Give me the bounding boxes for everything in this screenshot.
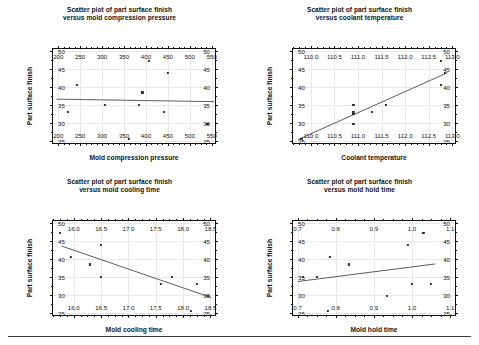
x-axis-label: Mold compression pressure xyxy=(52,154,216,161)
chart-title-line2: versus mold compression pressure xyxy=(0,14,239,22)
plot-frame: 2002002502503003003503504004004504505005… xyxy=(52,48,216,144)
x-axis-label: Mold hold time xyxy=(292,326,456,333)
chart-title: Scatter plot of part surface finishversu… xyxy=(0,178,239,195)
scatter-panel-mold-hold-time: Scatter plot of part surface finishversu… xyxy=(240,176,479,344)
figure-sheet: Scatter plot of part surface finishversu… xyxy=(0,0,479,345)
chart-title-line1: Scatter plot of part surface finish xyxy=(240,6,479,14)
chart-title-line1: Scatter plot of part surface finish xyxy=(0,178,239,186)
y-axis-label: Part surface finish xyxy=(25,48,35,144)
plot-frame: 110.0110.0110.5110.5111.0111.0111.5111.5… xyxy=(292,48,456,144)
chart-title-line1: Scatter plot of part surface finish xyxy=(240,178,479,186)
footer-divider xyxy=(8,336,471,337)
scatter-panel-mold-cooling-time: Scatter plot of part surface finishversu… xyxy=(0,176,239,344)
x-axis-label: Mold cooling time xyxy=(52,326,216,333)
x-axis-label: Coolant temperature xyxy=(292,154,456,161)
chart-title-line1: Scatter plot of part surface finish xyxy=(0,6,239,14)
chart-title: Scatter plot of part surface finishversu… xyxy=(240,178,479,195)
chart-title-line2: versus mold cooling time xyxy=(0,186,239,194)
y-axis-label: Part surface finish xyxy=(25,220,35,316)
plot-frame: 16.016.016.516.517.017.017.517.518.018.0… xyxy=(52,220,216,316)
scatter-panel-compression-pressure: Scatter plot of part surface finishversu… xyxy=(0,4,239,172)
y-axis-label: Part surface finish xyxy=(265,48,275,144)
chart-title: Scatter plot of part surface finishversu… xyxy=(240,6,479,23)
chart-title-line2: versus coolant temperature xyxy=(240,14,479,22)
chart-title: Scatter plot of part surface finishversu… xyxy=(0,6,239,23)
y-axis-label: Part surface finish xyxy=(265,220,275,316)
scatter-panel-coolant-temperature: Scatter plot of part surface finishversu… xyxy=(240,4,479,172)
plot-frame: 0.70.70.80.80.90.91.01.01.11.12525303035… xyxy=(292,220,456,316)
chart-title-line2: versus mold hold time xyxy=(240,186,479,194)
